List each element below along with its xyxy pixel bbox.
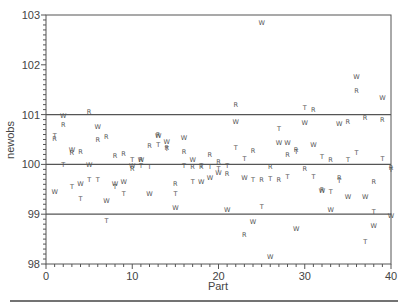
marker-t: T xyxy=(285,173,290,181)
marker-w: W xyxy=(379,94,386,102)
marker-t: T xyxy=(250,176,255,184)
marker-w: W xyxy=(250,218,257,226)
marker-w: W xyxy=(302,119,309,127)
marker-t: T xyxy=(69,183,74,191)
marker-r: R xyxy=(95,136,100,144)
marker-w: W xyxy=(155,132,162,140)
marker-w: W xyxy=(164,138,171,146)
marker-t: T xyxy=(241,155,246,163)
marker-r: R xyxy=(259,176,264,184)
marker-w: W xyxy=(327,206,334,214)
marker-w: W xyxy=(112,180,119,188)
marker-t: T xyxy=(233,144,238,152)
marker-w: W xyxy=(267,253,274,261)
marker-r: R xyxy=(380,116,385,124)
marker-w: W xyxy=(310,141,317,149)
marker-t: T xyxy=(52,132,57,140)
marker-w: W xyxy=(129,162,136,170)
marker-r: R xyxy=(208,151,213,159)
marker-t: T xyxy=(328,188,333,196)
marker-r: R xyxy=(78,148,83,156)
marker-r: R xyxy=(233,101,238,109)
marker-w: W xyxy=(233,118,240,126)
marker-r: R xyxy=(251,147,256,155)
marker-w: W xyxy=(103,197,110,205)
y-tick-label: 100 xyxy=(22,158,40,170)
marker-w: W xyxy=(69,146,76,154)
y-axis-title: newobs xyxy=(4,121,16,159)
marker-r: R xyxy=(285,151,290,159)
marker-w: W xyxy=(215,169,222,177)
marker-t: T xyxy=(302,104,307,112)
marker-w: W xyxy=(362,193,369,201)
marker-w: W xyxy=(60,112,67,120)
marker-r: R xyxy=(113,152,118,160)
marker-w: W xyxy=(345,193,352,201)
marker-r: R xyxy=(104,133,109,141)
marker-t: T xyxy=(60,161,65,169)
marker-w: W xyxy=(388,212,395,220)
marker-t: T xyxy=(267,175,272,183)
marker-w: W xyxy=(138,156,145,164)
marker-r: R xyxy=(268,163,273,171)
marker-t: T xyxy=(345,156,350,164)
marker-r: R xyxy=(302,165,307,173)
y-tick-label: 99 xyxy=(28,208,40,220)
marker-w: W xyxy=(276,139,283,147)
data-points: RRRRRRRRRRRRRRRRRRRRRRRRRRRRRRRRRRRRRRRR… xyxy=(51,19,394,261)
marker-t: T xyxy=(190,178,195,186)
marker-t: T xyxy=(172,190,177,198)
marker-w: W xyxy=(86,161,93,169)
y-tick-label: 98 xyxy=(28,258,40,270)
marker-r: R xyxy=(363,114,368,122)
marker-t: T xyxy=(310,173,315,181)
marker-w: W xyxy=(181,134,188,142)
marker-t: T xyxy=(259,203,264,211)
marker-r: R xyxy=(371,178,376,186)
marker-w: W xyxy=(51,188,58,196)
marker-t: T xyxy=(95,176,100,184)
marker-r: R xyxy=(311,106,316,114)
marker-r: R xyxy=(354,87,359,95)
y-axis: 9899100101102103 xyxy=(22,9,46,270)
marker-r: R xyxy=(173,180,178,188)
marker-t: T xyxy=(379,155,384,163)
marker-w: W xyxy=(353,73,360,81)
marker-t: T xyxy=(319,153,324,161)
marker-w: W xyxy=(284,139,291,147)
marker-r: R xyxy=(61,121,66,129)
marker-t: T xyxy=(224,162,229,170)
marker-t: T xyxy=(78,195,83,203)
marker-r: R xyxy=(121,150,126,158)
marker-r: R xyxy=(190,163,195,171)
marker-t: T xyxy=(181,162,186,170)
x-axis-title: Part xyxy=(208,280,228,292)
marker-w: W xyxy=(95,123,102,131)
marker-w: W xyxy=(172,204,179,212)
scatter-chart: 9899100101102103 010203040 RRRRRRRRRRRRR… xyxy=(0,0,407,308)
marker-r: R xyxy=(242,231,247,239)
marker-w: W xyxy=(371,222,378,230)
marker-w: W xyxy=(146,190,153,198)
x-tick-label: 40 xyxy=(385,270,397,282)
marker-t: T xyxy=(276,125,281,133)
x-tick-label: 0 xyxy=(43,270,49,282)
marker-w: W xyxy=(189,156,196,164)
marker-w: W xyxy=(198,178,205,186)
marker-t: T xyxy=(198,162,203,170)
x-tick-label: 30 xyxy=(299,270,311,282)
marker-w: W xyxy=(224,206,231,214)
y-tick-label: 101 xyxy=(22,109,40,121)
marker-r: R xyxy=(225,170,230,178)
y-tick-label: 102 xyxy=(22,59,40,71)
marker-t: T xyxy=(371,208,376,216)
marker-w: W xyxy=(293,225,300,233)
marker-w: W xyxy=(241,174,248,182)
marker-r: R xyxy=(182,148,187,156)
marker-t: T xyxy=(293,148,298,156)
marker-t: T xyxy=(207,163,212,171)
marker-w: W xyxy=(120,178,127,186)
marker-t: T xyxy=(388,166,393,174)
y-tick-label: 103 xyxy=(22,9,40,21)
marker-t: T xyxy=(121,190,126,198)
